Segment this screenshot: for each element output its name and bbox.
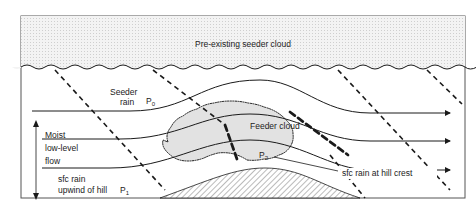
seeder-feeder-diagram: Pre-existing seeder cloud Seeder rain P0… xyxy=(0,0,476,207)
flow-label: flow xyxy=(45,156,61,166)
moist-label: Moist xyxy=(45,130,66,140)
sfc-rain-crest-label: sfc rain at hill crest xyxy=(342,168,413,178)
seeder-rain-label-2: rain xyxy=(120,97,134,107)
low-level-label: low-level xyxy=(45,143,78,153)
sfc-rain-upwind-label-2: upwind of hill xyxy=(58,185,107,195)
sfc-rain-upwind-label-1: sfc rain xyxy=(58,174,86,184)
seeder-cloud-label: Pre-existing seeder cloud xyxy=(195,39,291,49)
feeder-cloud-label: Feeder cloud xyxy=(250,121,300,131)
seeder-rain-label-1: Seeder xyxy=(110,87,138,97)
